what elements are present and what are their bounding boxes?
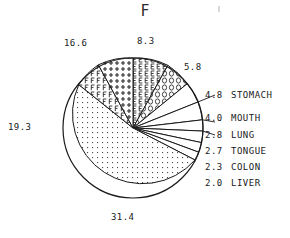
pct-label-31-4: 31.4 [111,212,134,222]
pie-slices [63,58,203,198]
pct-label-19-3: 19.3 [8,122,31,132]
legend-item-liver[interactable]: 2.0LIVER [205,178,261,188]
legend-label-stomach: STOMACH [231,90,272,100]
pct-label-16-6: 16.6 [64,38,87,48]
pie-chart-figure: F [0,0,290,238]
legend-value-stomach: 4.8 [205,90,231,100]
legend-item-colon[interactable]: 2.3COLON [205,162,261,172]
legend-label-lung: LUNG [231,130,255,140]
legend-item-tongue[interactable]: 2.7TONGUE [205,146,267,156]
legend-item-stomach[interactable]: 4.8STOMACH [205,90,272,100]
legend-value-liver: 2.0 [205,178,231,188]
legend-label-colon: COLON [231,162,261,172]
pct-label-5-8: 5.8 [184,62,201,72]
legend-value-colon: 2.3 [205,162,231,172]
pct-label-8-3: 8.3 [137,36,154,46]
legend-value-tongue: 2.7 [205,146,231,156]
legend-item-lung[interactable]: 2.8LUNG [205,130,255,140]
legend-label-liver: LIVER [231,178,261,188]
legend-value-mouth: 4.0 [205,113,231,123]
legend-value-lung: 2.8 [205,130,231,140]
legend-label-mouth: MOUTH [231,113,261,123]
legend-item-mouth[interactable]: 4.0MOUTH [205,113,261,123]
legend-label-tongue: TONGUE [231,146,267,156]
